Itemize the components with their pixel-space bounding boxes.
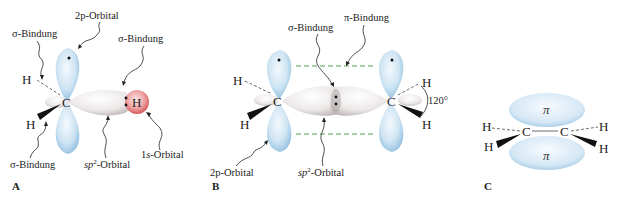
label-sigma-bond-right: σ-Bindung: [118, 33, 164, 44]
angle-label: 120°: [428, 95, 448, 106]
p-orbital-left-top: [267, 50, 291, 98]
atom-h: H: [422, 117, 431, 132]
label-2p-orbital: 2p-Orbital: [210, 167, 254, 178]
label-sp2-orbital: sp2-Orbital: [84, 158, 130, 170]
atom-c-left: C: [273, 94, 282, 109]
panel-b: C C H H H H 120° σ-Bindung π-Bindung 2p-…: [210, 12, 448, 192]
label-pi-bond: π-Bindung: [344, 12, 390, 23]
atom-h: H: [26, 117, 35, 132]
ethene-orbital-diagram: H C H H 2p-Orbital σ-Bindung σ-Bindung σ…: [0, 0, 624, 205]
label-sigma-bond-top: σ-Bindung: [12, 28, 58, 39]
atom-h: H: [233, 73, 242, 88]
p-orbital-left-bottom: [267, 104, 291, 152]
label-2p-orbital: 2p-Orbital: [75, 10, 119, 21]
atom-h: H: [484, 139, 493, 154]
p-orbital-bottom-lobe: [56, 104, 80, 154]
p-orbital-right-bottom: [379, 104, 403, 152]
atom-h: H: [132, 95, 141, 110]
atom-c-right: C: [560, 124, 569, 139]
atom-c-right: C: [387, 94, 396, 109]
atom-h: H: [240, 117, 249, 132]
panel-c: π π C C H H H H C: [482, 93, 608, 192]
atom-h: H: [422, 75, 431, 90]
label-sigma-bond: σ-Bindung: [288, 22, 334, 33]
panel-label-b: B: [212, 180, 220, 192]
electron-dot: [68, 57, 71, 60]
panel-a: H C H H 2p-Orbital σ-Bindung σ-Bindung σ…: [10, 10, 184, 192]
panel-label-c: C: [484, 180, 492, 192]
atom-c: C: [62, 95, 71, 110]
atom-h: H: [482, 119, 491, 134]
electron-dot: [125, 104, 128, 107]
panel-label-a: A: [12, 180, 20, 192]
p-orbital-top-lobe: [56, 48, 80, 100]
pi-label-top: π: [543, 102, 550, 117]
p-orbital-right-top: [379, 50, 403, 98]
sp2-orbital-lobe: [68, 90, 130, 116]
label-sigma-bond-bottom: σ-Bindung: [10, 159, 56, 170]
electron-dot: [125, 97, 128, 100]
atom-h: H: [599, 141, 608, 156]
label-sp2-orbital: sp2-Orbital: [298, 166, 344, 178]
atom-h: H: [22, 72, 31, 87]
atom-c-left: C: [522, 124, 531, 139]
pi-label-bottom: π: [543, 148, 550, 163]
atom-h: H: [599, 119, 608, 134]
label-1s-orbital: 1s-Orbital: [141, 149, 184, 160]
